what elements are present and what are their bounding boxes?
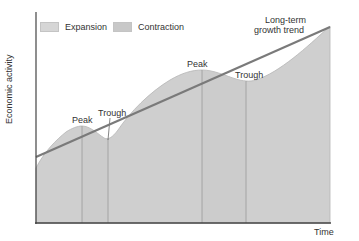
trend-label-line2: growth trend bbox=[254, 25, 304, 35]
contraction-area-1 bbox=[82, 126, 108, 223]
trough1-label: Trough bbox=[98, 108, 126, 118]
legend-expansion: Expansion bbox=[40, 22, 107, 32]
legend-contraction: Contraction bbox=[113, 22, 184, 32]
peak2-label: Peak bbox=[187, 59, 208, 69]
x-axis-label: Time bbox=[314, 227, 334, 237]
legend: Expansion Contraction bbox=[40, 22, 190, 32]
trend-label-line1: Long-term bbox=[265, 15, 306, 25]
contraction-area-2 bbox=[202, 70, 246, 223]
y-axis-label: Economic activity bbox=[4, 54, 14, 124]
trough2-label: Trough bbox=[235, 70, 263, 80]
legend-expansion-label: Expansion bbox=[65, 22, 107, 32]
contraction-swatch bbox=[113, 22, 132, 32]
peak1-label: Peak bbox=[72, 115, 93, 125]
trough1-pointer bbox=[108, 118, 110, 140]
business-cycle-chart bbox=[0, 0, 359, 241]
legend-contraction-label: Contraction bbox=[138, 22, 184, 32]
expansion-swatch bbox=[40, 22, 59, 32]
